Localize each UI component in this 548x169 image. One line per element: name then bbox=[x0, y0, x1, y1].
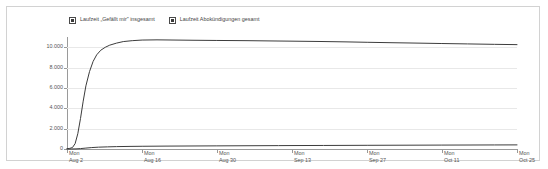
x-tick-label: MonAug 30 bbox=[217, 150, 236, 165]
legend-label-likes-total: Laufzeit „Gefällt mir" insgesamt bbox=[80, 17, 155, 22]
x-tick-weekday: Mon bbox=[144, 150, 161, 157]
checkbox-checked-icon[interactable] bbox=[169, 17, 176, 24]
chart-panel: Laufzeit „Gefällt mir" insgesamt Laufzei… bbox=[6, 6, 540, 161]
legend-item-likes-total[interactable]: Laufzeit „Gefällt mir" insgesamt bbox=[69, 17, 155, 24]
x-tick-date: Sep 13 bbox=[294, 157, 311, 164]
x-tick-weekday: Mon bbox=[69, 150, 83, 157]
legend-item-unsubscribes-total[interactable]: Laufzeit Abokündigungen gesamt bbox=[169, 17, 260, 24]
checkbox-checked-icon[interactable] bbox=[69, 17, 76, 24]
x-tick-weekday: Mon bbox=[444, 150, 459, 157]
x-tick-date: Aug 30 bbox=[219, 157, 236, 164]
y-tick-label-4000: 4.000 bbox=[50, 106, 64, 111]
x-tick-label: MonOct 11 bbox=[442, 150, 459, 165]
y-tick-label-2000: 2.000 bbox=[50, 126, 64, 131]
x-tick-label: MonAug 16 bbox=[142, 150, 161, 165]
y-tick-label-6000: 6.000 bbox=[50, 85, 64, 90]
x-tick-label: MonSep 13 bbox=[292, 150, 311, 165]
x-tick-weekday: Mon bbox=[219, 150, 236, 157]
y-tick-label-10000: 10.000 bbox=[47, 44, 64, 49]
x-tick-date: Oct 11 bbox=[444, 157, 459, 164]
x-tick-label: MonSep 27 bbox=[367, 150, 386, 165]
x-tick-date: Oct 25 bbox=[519, 157, 535, 164]
x-tick-date: Aug 2 bbox=[69, 157, 83, 164]
x-tick-weekday: Mon bbox=[369, 150, 386, 157]
x-tick-date: Aug 16 bbox=[144, 157, 161, 164]
plot-area: 02.0004.0006.0008.00010.000 MonAug 2MonA… bbox=[67, 37, 517, 149]
series-line-0 bbox=[67, 40, 517, 149]
legend-label-unsubscribes-total: Laufzeit Abokündigungen gesamt bbox=[180, 17, 260, 22]
y-tick-label-0: 0 bbox=[60, 146, 63, 151]
x-tick-label: MonAug 2 bbox=[67, 150, 83, 165]
chart-legend: Laufzeit „Gefällt mir" insgesamt Laufzei… bbox=[69, 14, 259, 26]
x-tick-label: MonOct 25 bbox=[517, 150, 535, 165]
x-tick-weekday: Mon bbox=[519, 150, 535, 157]
series-line-1 bbox=[67, 145, 517, 149]
y-tick-label-8000: 8.000 bbox=[50, 65, 64, 70]
series-lines bbox=[67, 37, 517, 149]
x-tick-weekday: Mon bbox=[294, 150, 311, 157]
x-tick-date: Sep 27 bbox=[369, 157, 386, 164]
